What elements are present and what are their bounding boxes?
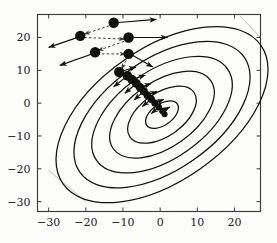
y-tick-label: 10: [17, 64, 31, 77]
x-tick-label: −30: [37, 216, 60, 229]
gradient-step-arrow: [116, 19, 157, 22]
top-right-fold-line: [240, 16, 260, 37]
y-tick-label: 20: [17, 31, 31, 44]
iterate-point: [108, 18, 118, 28]
y-tick-label: −30: [7, 196, 30, 209]
y-axis-tick-labels: 20100−10−20−30: [7, 31, 30, 208]
iterate-point: [75, 31, 85, 41]
y-tick-label: 0: [24, 97, 31, 110]
conjugate-direction-arrow: [84, 37, 125, 39]
contour-ellipse: [25, 0, 277, 238]
iterate-point: [90, 47, 100, 57]
x-tick-label: 10: [190, 216, 204, 229]
conjugate-direction-arrows: [84, 24, 129, 69]
figure-container: −30−20−1001020 20100−10−20−30: [0, 0, 277, 243]
contour-scatter-plot: −30−20−1001020 20100−10−20−30: [0, 0, 277, 243]
x-tick-label: −20: [74, 216, 97, 229]
y-tick-label: −10: [7, 130, 30, 143]
iterate-point: [123, 49, 133, 59]
iterate-point: [123, 32, 133, 42]
gradient-step-arrow: [130, 54, 152, 67]
x-tick-label: −10: [111, 216, 134, 229]
iterate-point: [162, 111, 168, 117]
contour-ellipses: [25, 0, 277, 238]
conjugate-direction-arrow: [84, 24, 114, 34]
x-axis-tick-labels: −30−20−1001020: [37, 216, 241, 229]
x-tick-label: 20: [227, 216, 241, 229]
conjugate-direction-arrow: [98, 40, 129, 51]
y-tick-label: −20: [7, 163, 30, 176]
x-tick-label: 0: [157, 216, 164, 229]
